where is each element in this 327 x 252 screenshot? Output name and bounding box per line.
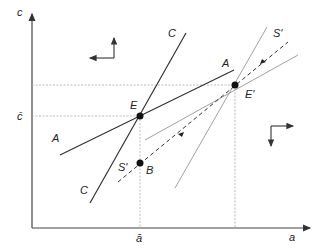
- saddle-label-top: S': [273, 28, 282, 39]
- saddle-label-bottom: S': [118, 162, 127, 173]
- a-curve-label-right: A: [222, 58, 229, 69]
- direction-arrows-lower-right-icon: [271, 126, 293, 146]
- point-e-prime: [232, 82, 239, 89]
- phase-diagram: c a c̄ ā C C A A S' S' E E' B: [0, 0, 327, 252]
- y-axis-label: c: [17, 7, 23, 18]
- direction-arrows-upper-left-icon: [90, 38, 114, 58]
- saddle-arrow-up-icon: [178, 132, 184, 137]
- x-axis-label: a: [289, 232, 295, 243]
- point-b-label: B: [146, 165, 153, 176]
- c-curve-label-top: C: [168, 28, 176, 39]
- c-curve-label-bottom: C: [80, 185, 88, 196]
- a-bar-tick: ā: [136, 233, 142, 244]
- point-e: [137, 113, 144, 120]
- a-curve-label-left: A: [52, 133, 59, 144]
- a-curve: [60, 70, 234, 155]
- point-e-prime-label: E': [245, 89, 254, 100]
- shifted-c-line: [175, 27, 267, 188]
- axes: [32, 14, 310, 228]
- point-b: [137, 160, 144, 167]
- saddle-arrow-down-icon: [260, 59, 266, 64]
- point-e-label: E: [130, 100, 137, 111]
- c-bar-tick: c̄: [17, 111, 23, 122]
